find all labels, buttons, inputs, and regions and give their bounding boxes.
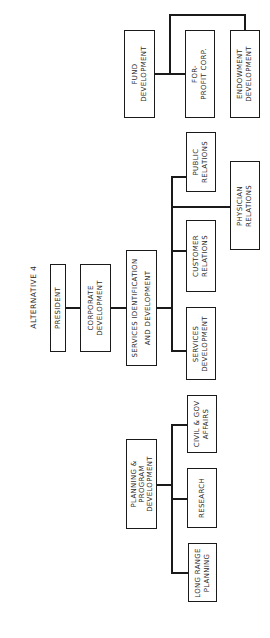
physician-relations-label: PHYSICIAN RELATIONS: [236, 185, 254, 227]
public-relations-label: PUBLIC RELATIONS: [192, 141, 210, 183]
fund-development-box: FUND DEVELOPMENT: [124, 30, 155, 118]
customer-relations-box: CUSTOMER RELATIONS: [186, 220, 216, 292]
endowment-development-box: ENDOWMENT DEVELOPMENT: [230, 30, 260, 118]
corporate-development-box: CORPORATE DEVELOPMENT: [80, 264, 111, 352]
connector: [171, 572, 188, 574]
public-relations-box: PUBLIC RELATIONS: [186, 132, 216, 192]
connector: [111, 307, 126, 309]
long-range-planning-box: LONG RANGE PLANNING: [188, 543, 217, 602]
connector: [157, 307, 172, 309]
for-profit-corp-label: FOR- PROFIT CORP.: [191, 48, 209, 99]
connector: [171, 498, 187, 500]
president-box: PRESIDENT: [50, 264, 66, 352]
connector: [171, 350, 186, 352]
services-identification-box: SERVICES IDENTIFICATION AND DEVELOPMENT: [126, 250, 157, 366]
research-box: RESEARCH: [187, 468, 217, 528]
services-development-label: SERVICES DEVELOPMENT: [192, 316, 210, 372]
long-range-planning-label: LONG RANGE PLANNING: [194, 548, 212, 598]
civil-gov-affairs-label: CIVIL & GOV AFFAIRS: [193, 401, 211, 448]
connector: [169, 14, 171, 74]
corporate-development-label: CORPORATE DEVELOPMENT: [87, 280, 105, 336]
chart-title: ALTERNATIVE 4: [29, 265, 38, 328]
services-identification-label: SERVICES IDENTIFICATION AND DEVELOPMENT: [129, 259, 155, 358]
president-label: PRESIDENT: [54, 287, 63, 329]
connector: [171, 176, 173, 352]
connector: [157, 484, 172, 486]
services-development-box: SERVICES DEVELOPMENT: [186, 307, 216, 380]
connector: [66, 307, 80, 309]
connector: [244, 14, 246, 30]
for-profit-corp-box: FOR- PROFIT CORP.: [185, 30, 215, 118]
connector: [171, 206, 230, 208]
connector: [171, 176, 186, 178]
planning-program-label: PLANNING & PROGRAM DEVELOPMENT: [130, 456, 154, 512]
research-label: RESEARCH: [198, 478, 207, 518]
planning-program-box: PLANNING & PROGRAM DEVELOPMENT: [126, 439, 157, 529]
customer-relations-label: CUSTOMER RELATIONS: [192, 235, 210, 277]
connector: [171, 250, 186, 252]
physician-relations-box: PHYSICIAN RELATIONS: [230, 161, 260, 250]
connector: [171, 424, 187, 426]
connector: [169, 14, 246, 16]
civil-gov-affairs-box: CIVIL & GOV AFFAIRS: [187, 395, 217, 453]
fund-development-label: FUND DEVELOPMENT: [131, 46, 149, 102]
endowment-development-label: ENDOWMENT DEVELOPMENT: [236, 46, 254, 102]
